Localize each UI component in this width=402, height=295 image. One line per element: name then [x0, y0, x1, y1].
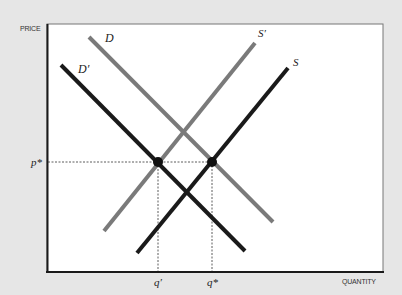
curve-label-s: S — [293, 56, 299, 68]
q-star-label: q* — [207, 276, 219, 288]
equilibrium-point — [153, 157, 163, 167]
curve-label-s-prime: S′ — [258, 27, 267, 39]
plot-area — [47, 24, 383, 272]
p-star-label: p* — [30, 156, 43, 168]
supply-demand-diagram: PRICE QUANTITY D D′ S′ S p* q′ q* — [0, 0, 402, 295]
curve-label-d: D — [104, 31, 114, 45]
equilibrium-point — [207, 157, 217, 167]
price-axis-label: PRICE — [20, 25, 41, 32]
quantity-axis-label: QUANTITY — [342, 278, 376, 286]
q-prime-label: q′ — [154, 276, 163, 288]
curve-label-d-prime: D′ — [77, 62, 90, 76]
